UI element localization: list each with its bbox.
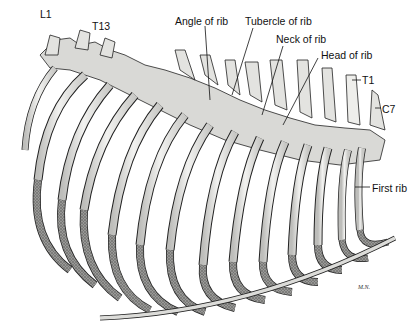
label-tubercle-of-rib: Tubercle of rib: [245, 16, 312, 27]
artist-signature: M.N.: [358, 284, 370, 290]
label-t13: T13: [92, 21, 110, 32]
label-l1: L1: [40, 9, 52, 20]
label-c7: C7: [382, 104, 395, 115]
label-head-of-rib: Head of rib: [321, 50, 372, 61]
label-t1: T1: [362, 75, 374, 86]
label-first-rib: First rib: [372, 183, 407, 194]
label-angle-of-rib: Angle of rib: [175, 16, 228, 27]
label-neck-of-rib: Neck of rib: [276, 34, 326, 45]
